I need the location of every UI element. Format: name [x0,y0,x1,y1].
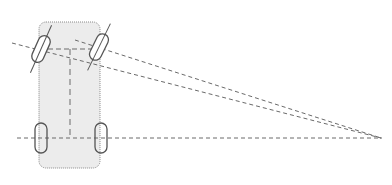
turn-center-point [380,137,382,139]
front-right-wheel-axis-line [75,40,381,138]
ackermann-steering-diagram [0,0,392,185]
